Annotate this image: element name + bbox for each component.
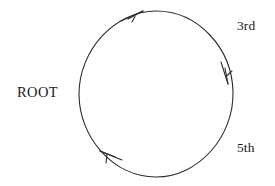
label-root: ROOT bbox=[17, 85, 58, 100]
arrowhead-right-icon bbox=[221, 62, 232, 84]
circle-diagram: ROOT 3rd 5th bbox=[0, 0, 275, 186]
label-third: 3rd bbox=[237, 19, 255, 33]
arrowhead-top-icon bbox=[121, 11, 143, 22]
label-fifth: 5th bbox=[237, 141, 255, 155]
